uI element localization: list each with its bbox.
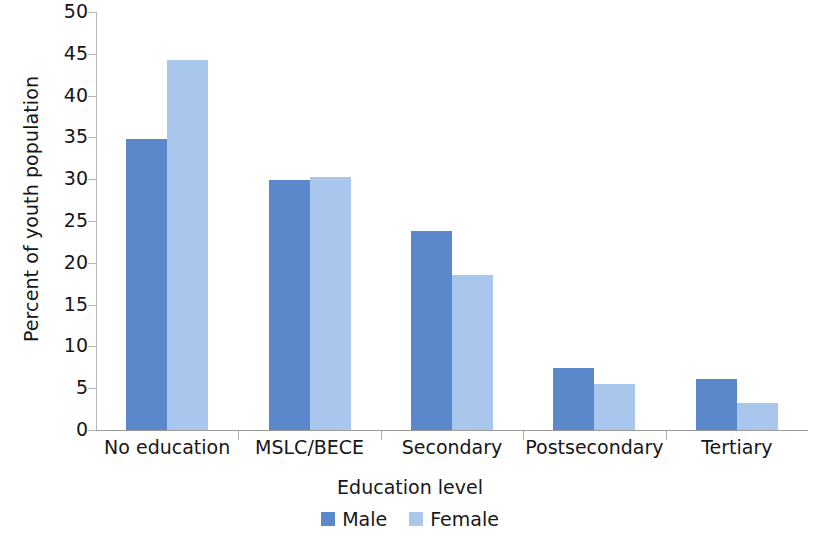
x-category-label: Postsecondary — [525, 436, 663, 458]
y-tick-mark — [88, 221, 96, 222]
y-tick-mark — [88, 96, 96, 97]
bar-male-secondary — [411, 231, 452, 430]
legend-swatch-icon — [409, 512, 423, 526]
x-tick-mark — [238, 431, 239, 440]
bar-female-tertiary — [737, 403, 778, 430]
y-tick-label: 10 — [64, 334, 88, 356]
y-tick-label: 35 — [64, 125, 88, 147]
y-tick-mark — [88, 388, 96, 389]
y-tick-mark — [88, 430, 96, 431]
bar-male-no-education — [126, 139, 167, 430]
y-tick-label: 20 — [64, 251, 88, 273]
x-category-label: Secondary — [402, 436, 503, 458]
bar-female-postsecondary — [594, 384, 635, 430]
x-axis-title: Education level — [0, 476, 820, 498]
y-tick-mark — [88, 54, 96, 55]
y-axis-line — [96, 12, 97, 431]
y-tick-label: 40 — [64, 84, 88, 106]
bar-female-no-education — [167, 60, 208, 430]
bar-female-mslc-bece — [310, 177, 351, 430]
y-tick-label: 25 — [64, 209, 88, 231]
x-axis-line — [96, 430, 808, 431]
y-tick-label: 5 — [76, 376, 88, 398]
x-tick-mark — [666, 431, 667, 440]
legend-item-female[interactable]: Female — [409, 508, 499, 530]
y-axis-title: Percent of youth population — [20, 44, 42, 374]
y-tick-mark — [88, 137, 96, 138]
y-tick-mark — [88, 12, 96, 13]
bar-male-tertiary — [696, 379, 737, 430]
bar-male-postsecondary — [553, 368, 594, 430]
y-tick-mark — [88, 346, 96, 347]
y-tick-mark — [88, 305, 96, 306]
y-tick-label: 50 — [64, 0, 88, 22]
y-tick-label: 45 — [64, 42, 88, 64]
bar-male-mslc-bece — [269, 180, 310, 430]
legend-label: Female — [430, 508, 499, 530]
y-tick-mark — [88, 179, 96, 180]
legend-item-male[interactable]: Male — [321, 508, 387, 530]
legend-swatch-icon — [321, 512, 335, 526]
legend-label: Male — [342, 508, 387, 530]
y-tick-label: 0 — [76, 418, 88, 440]
y-tick-label: 30 — [64, 167, 88, 189]
chart-legend: MaleFemale — [0, 508, 820, 530]
plot-area: 05101520253035404550 — [96, 12, 808, 430]
x-tick-mark — [381, 431, 382, 440]
x-category-label: No education — [104, 436, 230, 458]
bar-chart: Percent of youth population 051015202530… — [0, 0, 820, 538]
x-category-label: Tertiary — [701, 436, 772, 458]
x-tick-mark — [523, 431, 524, 440]
bar-female-secondary — [452, 275, 493, 430]
y-tick-label: 15 — [64, 293, 88, 315]
y-tick-mark — [88, 263, 96, 264]
x-category-label: MSLC/BECE — [255, 436, 364, 458]
